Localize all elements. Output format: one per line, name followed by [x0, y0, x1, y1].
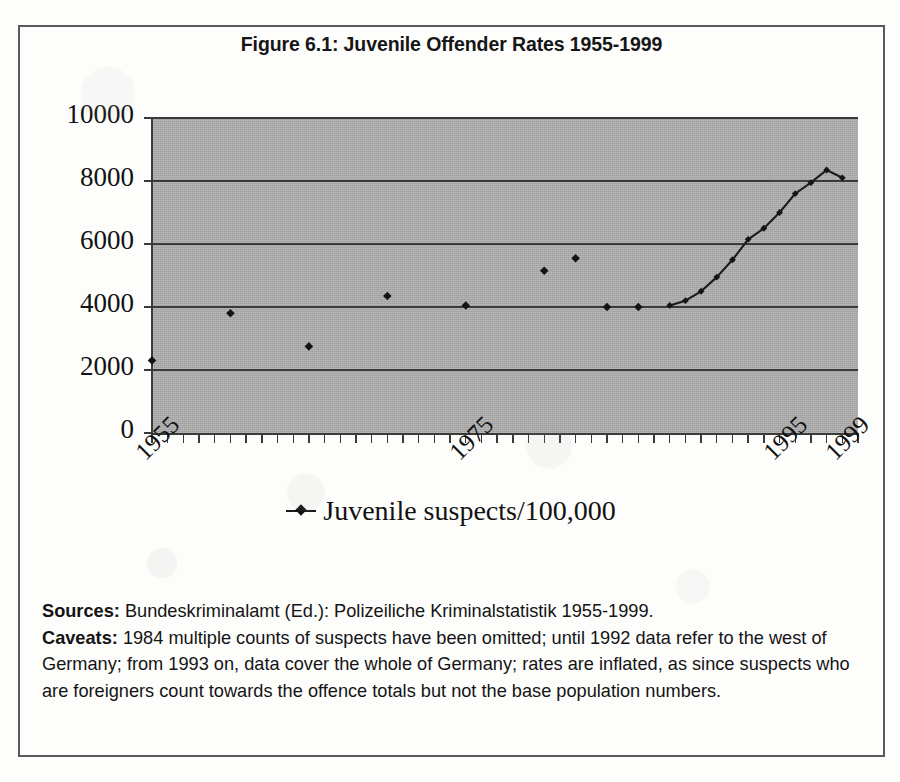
x-tick-1969: [371, 434, 372, 443]
x-tick-1979: [528, 434, 529, 443]
y-axis-label-0: 0: [2, 414, 134, 445]
data-point-1984: [603, 303, 612, 312]
sources-note: Sources: Bundeskriminalamt (Ed.): Polize…: [42, 598, 852, 625]
x-tick-1985: [622, 434, 623, 443]
x-tick-1983: [591, 434, 592, 443]
x-tick-1957: [183, 434, 184, 443]
x-tick-1991: [716, 434, 717, 443]
sources-label: Sources:: [42, 601, 120, 621]
x-tick-1993: [747, 434, 748, 443]
data-point-1980: [540, 266, 549, 275]
data-point-1986: [634, 303, 643, 312]
x-tick-1982: [575, 434, 576, 443]
x-tick-1990: [700, 434, 701, 443]
x-tick-1970: [387, 434, 388, 443]
x-tick-1958: [198, 434, 199, 443]
x-tick-1987: [653, 434, 654, 443]
y-axis-label-8000: 8000: [2, 162, 134, 193]
chart-legend: Juvenile suspects/100,000: [0, 495, 900, 527]
legend-line-marker-icon: [284, 503, 318, 519]
x-tick-1988: [669, 434, 670, 443]
sources-text: Bundeskriminalamt (Ed.): Polizeiliche Kr…: [120, 601, 654, 621]
x-tick-1981: [559, 434, 560, 443]
y-axis-label-2000: 2000: [2, 351, 134, 382]
data-point-1970: [383, 292, 392, 301]
x-tick-1973: [434, 434, 435, 443]
x-tick-1989: [685, 434, 686, 443]
caveats-text: 1984 multiple counts of suspects have be…: [42, 628, 850, 701]
x-tick-1992: [732, 434, 733, 443]
x-tick-1965: [308, 434, 309, 443]
x-tick-1963: [277, 434, 278, 443]
data-point-1955: [148, 356, 157, 365]
x-tick-1960: [230, 434, 231, 443]
x-tick-1997: [810, 434, 811, 443]
x-tick-1980: [544, 434, 545, 443]
y-axis-label-6000: 6000: [2, 225, 134, 256]
x-tick-1961: [245, 434, 246, 443]
caveats-label: Caveats:: [42, 628, 118, 648]
legend-label: Juvenile suspects/100,000: [323, 495, 615, 527]
x-tick-1959: [214, 434, 215, 443]
y-axis-label-10000: 10000: [2, 99, 134, 130]
x-tick-1972: [418, 434, 419, 443]
x-tick-1968: [355, 434, 356, 443]
data-point-1982: [571, 254, 580, 263]
chart-plot-container: 1000080006000400020000 1955197519951999: [0, 60, 900, 490]
x-tick-1971: [402, 434, 403, 443]
figure-title: Figure 6.1: Juvenile Offender Rates 1955…: [18, 33, 885, 56]
x-tick-1967: [340, 434, 341, 443]
data-series-juvenile-suspects: [152, 118, 858, 433]
figure-notes: Sources: Bundeskriminalamt (Ed.): Polize…: [42, 598, 852, 704]
x-tick-1966: [324, 434, 325, 443]
x-tick-1964: [293, 434, 294, 443]
x-tick-1962: [261, 434, 262, 443]
caveats-note: Caveats: 1984 multiple counts of suspect…: [42, 625, 852, 705]
data-point-1960: [226, 309, 235, 318]
x-tick-1977: [496, 434, 497, 443]
y-axis-label-4000: 4000: [2, 288, 134, 319]
x-tick-1986: [638, 434, 639, 443]
x-tick-1978: [512, 434, 513, 443]
x-axis-line: [151, 433, 859, 435]
x-tick-1984: [606, 434, 607, 443]
data-point-1988: [666, 302, 673, 309]
data-point-1975: [461, 301, 470, 310]
data-point-1965: [305, 342, 314, 351]
